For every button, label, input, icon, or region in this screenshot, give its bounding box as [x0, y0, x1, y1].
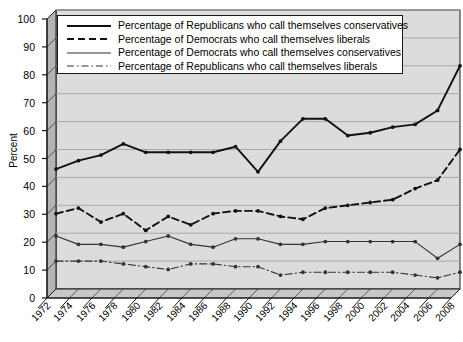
data-point — [323, 206, 327, 210]
legend-line-swatch — [66, 33, 112, 45]
data-point — [99, 259, 103, 263]
data-point — [166, 234, 170, 238]
data-point — [279, 139, 283, 143]
y-tick-label: 40 — [9, 181, 35, 191]
y-tick-label: 90 — [9, 42, 35, 52]
data-point — [391, 240, 395, 244]
data-point — [99, 220, 103, 224]
legend: Percentage of Republicans who call thems… — [57, 15, 403, 74]
data-point — [121, 142, 125, 146]
data-point — [166, 150, 170, 154]
y-tick-label: 100 — [9, 14, 35, 24]
data-point — [413, 240, 417, 244]
data-point — [211, 212, 215, 216]
data-point — [234, 237, 238, 241]
data-point — [54, 212, 58, 216]
legend-label: Percentage of Republicans who call thems… — [118, 61, 377, 72]
data-point — [234, 209, 238, 213]
data-point — [144, 240, 148, 244]
data-point — [346, 240, 350, 244]
data-point — [189, 262, 193, 266]
data-point — [346, 203, 350, 207]
percent-ideology-line-chart: Percent 0102030405060708090100 197219741… — [0, 0, 463, 342]
data-point — [234, 145, 238, 149]
y-tick-label: 10 — [9, 265, 35, 275]
data-point — [144, 229, 148, 233]
y-tick-label: 50 — [9, 154, 35, 164]
legend-item: Percentage of Democrats who call themsel… — [58, 46, 402, 60]
data-point — [166, 268, 170, 272]
data-point — [391, 125, 395, 129]
data-point — [436, 276, 440, 280]
data-point — [391, 270, 395, 274]
data-point — [54, 167, 58, 171]
y-tick-label: 60 — [9, 126, 35, 136]
data-point — [346, 270, 350, 274]
y-tick-label: 0 — [9, 293, 35, 303]
y-tick-label: 70 — [9, 98, 35, 108]
data-point — [256, 170, 260, 174]
data-point — [99, 242, 103, 246]
data-point — [368, 131, 372, 135]
data-point — [458, 270, 462, 274]
data-point — [436, 109, 440, 113]
data-point — [211, 245, 215, 249]
data-point — [144, 265, 148, 269]
data-point — [189, 150, 193, 154]
data-point — [413, 273, 417, 277]
legend-item: Percentage of Republicans who call thems… — [58, 60, 402, 74]
data-point — [256, 237, 260, 241]
data-point — [458, 64, 462, 68]
data-point — [368, 201, 372, 205]
data-point — [211, 150, 215, 154]
data-point — [279, 242, 283, 246]
data-point — [234, 265, 238, 269]
data-point — [301, 242, 305, 246]
legend-item: Percentage of Republicans who call thems… — [58, 19, 402, 33]
legend-label: Percentage of Democrats who call themsel… — [118, 34, 370, 45]
data-point — [99, 153, 103, 157]
data-point — [323, 117, 327, 121]
data-point — [121, 245, 125, 249]
legend-label: Percentage of Democrats who call themsel… — [118, 47, 401, 58]
data-point — [413, 187, 417, 191]
data-point — [436, 256, 440, 260]
legend-label: Percentage of Republicans who call thems… — [118, 20, 408, 31]
data-point — [301, 117, 305, 121]
data-point — [54, 259, 58, 263]
data-point — [121, 262, 125, 266]
data-point — [54, 234, 58, 238]
y-tick-label: 20 — [9, 237, 35, 247]
data-point — [413, 122, 417, 126]
legend-item: Percentage of Democrats who call themsel… — [58, 33, 402, 47]
data-point — [323, 270, 327, 274]
data-point — [346, 134, 350, 138]
data-point — [279, 215, 283, 219]
data-point — [189, 242, 193, 246]
data-point — [301, 217, 305, 221]
data-point — [256, 265, 260, 269]
data-point — [77, 242, 81, 246]
data-point — [211, 262, 215, 266]
data-point — [368, 240, 372, 244]
data-point — [144, 150, 148, 154]
data-point — [458, 242, 462, 246]
data-point — [458, 148, 462, 152]
data-point — [323, 240, 327, 244]
legend-line-swatch — [66, 60, 112, 72]
data-point — [77, 159, 81, 163]
data-point — [256, 209, 260, 213]
data-point — [77, 206, 81, 210]
data-point — [77, 259, 81, 263]
data-point — [301, 270, 305, 274]
data-point — [279, 273, 283, 277]
data-point — [391, 198, 395, 202]
data-point — [121, 212, 125, 216]
y-tick-label: 30 — [9, 209, 35, 219]
legend-line-swatch — [66, 20, 112, 32]
data-point — [436, 178, 440, 182]
data-point — [368, 270, 372, 274]
data-point — [189, 223, 193, 227]
legend-line-swatch — [66, 47, 112, 59]
y-tick-label: 80 — [9, 70, 35, 80]
